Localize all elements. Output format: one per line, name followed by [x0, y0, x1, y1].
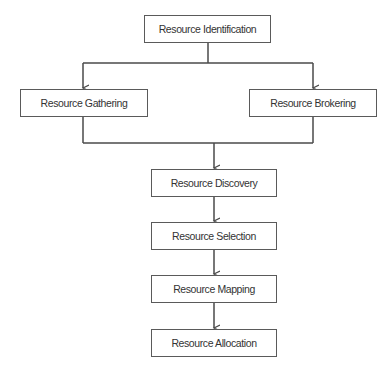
- flowchart-canvas: Resource Identification Resource Gatheri…: [0, 0, 390, 370]
- node-resource-gathering: Resource Gathering: [20, 89, 148, 117]
- node-resource-brokering: Resource Brokering: [249, 89, 377, 117]
- node-resource-selection: Resource Selection: [151, 222, 277, 250]
- node-resource-identification: Resource Identification: [144, 15, 271, 43]
- node-resource-discovery: Resource Discovery: [151, 169, 277, 197]
- node-resource-allocation: Resource Allocation: [151, 329, 277, 357]
- node-resource-mapping: Resource Mapping: [151, 275, 277, 303]
